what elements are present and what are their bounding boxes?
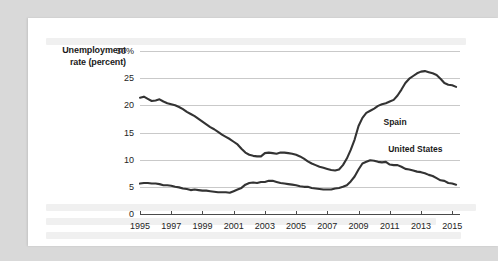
plot-area [0,0,498,261]
screenshot-root: Unemployment rate (percent) 051015202530… [0,0,498,261]
chart-figure: Unemployment rate (percent) 051015202530… [0,0,498,261]
series-line-united-states [140,160,456,193]
series-label-spain: Spain [384,117,407,127]
series-label-united-states: United States [388,144,442,154]
series-line-spain [140,71,456,170]
